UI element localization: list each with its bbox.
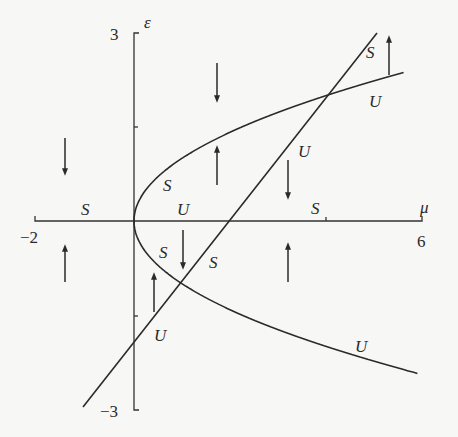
parabola-curve: [134, 72, 417, 373]
epsilon-axis-label: ε: [144, 13, 151, 32]
x-max-label: 6: [417, 232, 426, 251]
stability-label: U: [355, 337, 369, 356]
stability-labels: S S U U S S U S S U U: [81, 43, 383, 356]
stability-label: U: [154, 326, 168, 345]
bifurcation-diagram: μ ε 3 −3 −2 6 S S U U S S U S S U U: [0, 0, 458, 437]
stability-label: U: [177, 200, 191, 219]
stability-label: U: [298, 142, 312, 161]
line-curve: [83, 33, 377, 407]
x-min-label: −2: [20, 228, 38, 247]
stability-label: S: [81, 200, 90, 219]
stability-label: S: [163, 176, 172, 195]
mu-axis-label: μ: [419, 198, 429, 217]
mu-axis: [35, 216, 422, 221]
stability-label: S: [159, 243, 168, 262]
y-max-label: 3: [110, 25, 119, 44]
stability-label: S: [311, 199, 320, 218]
stability-label: S: [366, 43, 375, 62]
stability-label: U: [369, 92, 383, 111]
stability-label: S: [209, 253, 218, 272]
y-min-label: −3: [100, 402, 118, 421]
